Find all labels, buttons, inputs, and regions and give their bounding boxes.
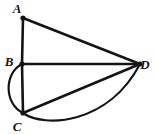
segment-ab	[22, 18, 23, 64]
geometry-canvas: A B C D	[0, 0, 157, 134]
geometry-figure: A B C D	[0, 0, 157, 134]
segment-bc	[22, 64, 23, 113]
segment-ad	[23, 18, 140, 64]
vertex-dot-a	[20, 15, 25, 20]
vertex-label-c: C	[13, 119, 22, 134]
vertex-dot-group	[19, 15, 142, 115]
vertex-dot-b	[19, 61, 24, 66]
vertex-dot-c	[20, 110, 25, 115]
arc-b-to-c	[9, 64, 23, 113]
vertex-label-d: D	[139, 57, 150, 72]
vertex-label-b: B	[4, 54, 14, 69]
segment-group	[22, 18, 140, 113]
vertex-label-a: A	[12, 1, 22, 16]
